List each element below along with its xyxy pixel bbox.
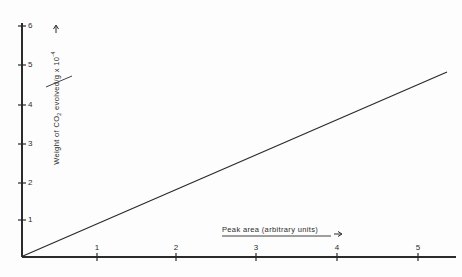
y-tick-label-1: 1	[28, 215, 33, 224]
y-axis-label-text: Weight of CO2 evolved/g x 10-4	[52, 51, 61, 164]
y-axis-label-middle: evolved/g x 10	[52, 57, 61, 113]
x-tick-label-2: 2	[170, 243, 182, 252]
x-axis-arrow-icon	[334, 232, 342, 237]
y-axis-label-subscript: 2	[56, 112, 62, 115]
x-tick-label-5: 5	[412, 243, 424, 252]
y-tick-label-3: 3	[28, 139, 33, 148]
plot-canvas	[0, 0, 462, 277]
y-tick-label-4: 4	[28, 100, 33, 109]
x-axis-label: Peak area (arbitrary units)	[222, 225, 318, 234]
y-tick-label-2: 2	[28, 178, 33, 187]
y-axis-label-superscript: -4	[50, 51, 56, 56]
y-axis-label: Weight of CO2 evolved/g x 10-4	[44, 24, 68, 192]
x-tick-label-1: 1	[91, 243, 103, 252]
x-tick-label-4: 4	[331, 243, 343, 252]
chart-figure: 1 2 3 4 5 6 1 2 3 4 5 Weight of CO2 evol…	[0, 0, 462, 277]
y-axis-label-prefix: Weight of CO	[52, 116, 61, 165]
y-tick-label-6: 6	[28, 21, 33, 30]
x-tick-label-3: 3	[250, 243, 262, 252]
y-tick-label-5: 5	[28, 60, 33, 69]
